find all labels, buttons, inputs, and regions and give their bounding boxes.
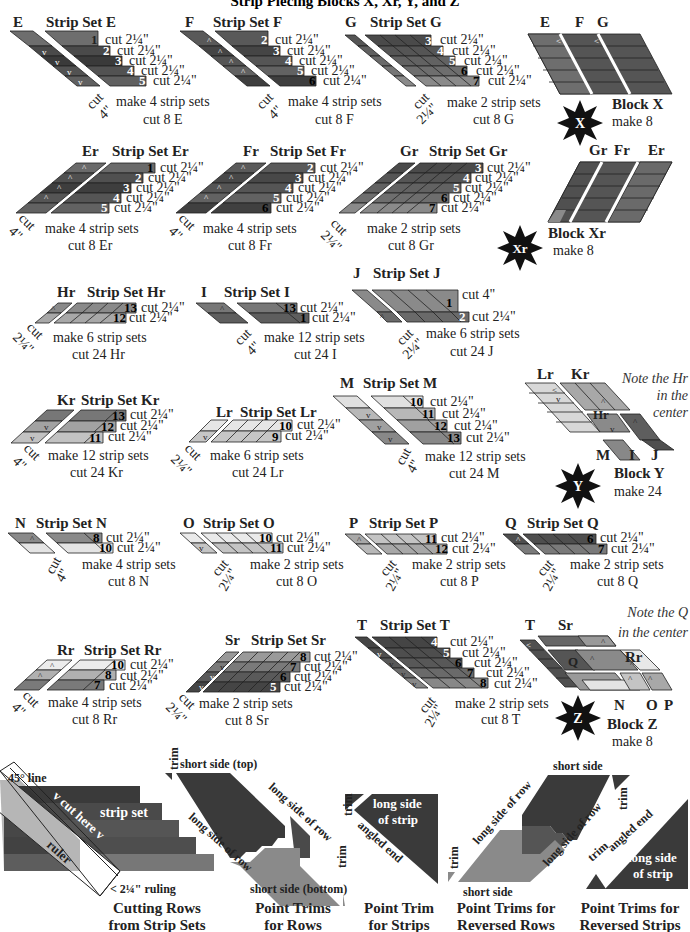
strip-set-title: Strip Set N bbox=[36, 515, 107, 531]
note-text: Note the Hr bbox=[621, 371, 689, 386]
strip-set-j: J Strip Set J ^ 1 2 cut 4" cut 2¼" cut 2… bbox=[352, 265, 520, 362]
cut-count: cut 8 Fr bbox=[228, 238, 272, 253]
cut-instruction: cut 2¼" bbox=[494, 676, 538, 691]
row-number: 11 bbox=[89, 430, 101, 445]
make-count: make 2 strip sets bbox=[199, 696, 293, 711]
cut-instruction: cut 2¼" bbox=[611, 541, 655, 556]
diagram-canvas: Strip Piecing Blocks X, Xr, Y, and Z E S… bbox=[0, 0, 690, 932]
make-count: make 2 strip sets bbox=[250, 557, 344, 572]
cut-count: cut 8 Er bbox=[68, 238, 113, 253]
make-count: make 2 strip sets bbox=[447, 95, 541, 110]
piece-label: O bbox=[183, 515, 195, 531]
strip-set-title: Strip Set Rr bbox=[84, 642, 162, 658]
note-text: in the bbox=[657, 388, 689, 403]
svg-text:v: v bbox=[55, 57, 60, 67]
svg-text:v: v bbox=[366, 410, 371, 420]
strip-set-title: Strip Set M bbox=[363, 375, 437, 391]
cut-count: cut 8 E bbox=[143, 112, 183, 127]
block-y: Lr Kr < v ^ ^ v Hr Note the Hr in the ce… bbox=[525, 366, 689, 509]
label-45-line: 45° line bbox=[8, 771, 47, 785]
cut-instruction: cut 2¼" bbox=[312, 310, 356, 325]
caption: Reversed Strips bbox=[579, 917, 680, 932]
piece-label: Rr bbox=[57, 642, 75, 658]
make-count: make 2 strip sets bbox=[412, 557, 506, 572]
part-label: P bbox=[664, 697, 673, 713]
label-long-side: long side bbox=[373, 796, 422, 811]
svg-text:v: v bbox=[388, 434, 393, 444]
label-of-strip: of strip bbox=[378, 812, 418, 827]
svg-text:v: v bbox=[610, 424, 615, 434]
cut-instruction: cut 2¼" bbox=[109, 678, 153, 693]
cut-instruction: cut 2¼" bbox=[323, 73, 367, 88]
svg-text:v: v bbox=[67, 67, 72, 77]
svg-text:v: v bbox=[199, 543, 204, 553]
cut-count: cut 8 F bbox=[315, 112, 354, 127]
svg-text:v: v bbox=[401, 669, 406, 679]
caption: for Strips bbox=[369, 917, 430, 932]
part-label: J bbox=[651, 447, 659, 463]
piece-label: M bbox=[340, 375, 354, 391]
svg-text:v: v bbox=[199, 682, 204, 692]
cut-instruction: cut 2¼" bbox=[108, 429, 152, 444]
caption: Reversed Rows bbox=[457, 917, 555, 932]
strip-set-title: Strip Set Sr bbox=[251, 632, 326, 648]
part-label: N bbox=[614, 697, 625, 713]
svg-text:v: v bbox=[203, 432, 208, 442]
strip-set-rr: Rr Strip Set Rr ^^ 10 8 7 cut 2¼" cut 2¼… bbox=[9, 642, 174, 727]
note-text: in the center bbox=[618, 625, 689, 640]
row-number: 6 bbox=[262, 200, 269, 215]
cut-instruction: cut 2¼" bbox=[285, 428, 329, 443]
cut-instruction: cut 2¼" bbox=[117, 540, 161, 555]
label-of-strip: of strip bbox=[633, 866, 673, 881]
cut-count: cut 24 Hr bbox=[72, 347, 125, 362]
label-trim: trim bbox=[341, 793, 355, 816]
row-number: 7 bbox=[467, 665, 474, 680]
strip-set-title: Strip Set Hr bbox=[87, 284, 166, 300]
piece-label: I bbox=[201, 284, 207, 300]
row-number: 9 bbox=[272, 429, 279, 444]
caption: Point Trims for bbox=[457, 900, 556, 916]
strip-set-title: Strip Set O bbox=[203, 515, 275, 531]
piece-label: Q bbox=[505, 515, 517, 531]
label-short-side-top: short side bbox=[553, 759, 603, 773]
row-number: 4 bbox=[431, 634, 438, 649]
cut-instruction: cut 2¼" bbox=[114, 200, 158, 215]
row-number: 13 bbox=[283, 300, 297, 315]
strip-set-o: O Strip Set O v 10 11 cut 2¼" cut 2¼" cu… bbox=[180, 515, 344, 594]
caption: from Strip Sets bbox=[108, 917, 205, 932]
strip-set-title: Strip Set F bbox=[213, 14, 282, 30]
strip-set-title: Strip Set P bbox=[369, 515, 438, 531]
piece-label: Sr bbox=[225, 632, 240, 648]
label-trim: trim bbox=[335, 845, 349, 868]
strip-set-title: Strip Set Q bbox=[527, 515, 599, 531]
strip-set-i: I Strip Set I ^ 13 1 cut 2¼" cut 2¼" cut… bbox=[196, 284, 365, 362]
strip-set-hr: Hr Strip Set Hr ^ 13 12 cut 2¼" cut 2¼" … bbox=[10, 284, 185, 362]
row-number: 1 bbox=[446, 295, 453, 310]
note-text: center bbox=[653, 405, 689, 420]
label-trim: trim bbox=[616, 787, 630, 810]
part-label: Rr bbox=[625, 649, 643, 665]
part-label: Lr bbox=[537, 366, 554, 382]
cut-instruction: cut 2¼" bbox=[441, 200, 485, 215]
make-count: make 6 strip sets bbox=[53, 330, 147, 345]
piece-label: Lr bbox=[216, 404, 233, 420]
caption: Point Trims bbox=[255, 900, 331, 916]
cut-count: cut 24 J bbox=[450, 344, 494, 359]
piece-label: F bbox=[185, 14, 194, 30]
strip-set-title: Strip Set Fr bbox=[270, 143, 346, 159]
svg-text:v: v bbox=[44, 422, 49, 432]
strip-set-title: Strip Set E bbox=[46, 14, 116, 30]
label-ruling: < 2¼" ruling bbox=[110, 882, 176, 896]
cut-instruction: cut 2¼" bbox=[466, 430, 510, 445]
make-count: make 4 strip sets bbox=[116, 94, 210, 109]
make-count: make 4 strip sets bbox=[82, 557, 176, 572]
make-count: make 4 strip sets bbox=[48, 695, 142, 710]
cut-count: cut 24 Kr bbox=[70, 465, 123, 480]
caption: for Rows bbox=[264, 917, 322, 932]
part-label: Sr bbox=[558, 617, 573, 633]
cut-count: cut 24 I bbox=[294, 347, 337, 362]
cut-instruction: cut 2¼" bbox=[488, 73, 532, 88]
svg-text:v: v bbox=[389, 659, 394, 669]
cutting-rows-diagram: 45° line v cut here v strip set ruler < … bbox=[0, 762, 214, 932]
svg-text:v: v bbox=[556, 394, 561, 404]
